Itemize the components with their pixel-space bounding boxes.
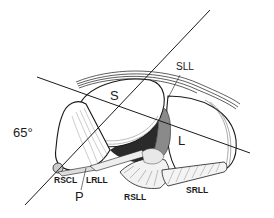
label-SRLL: SRLL bbox=[186, 186, 208, 195]
label-SLL: SLL bbox=[176, 62, 194, 72]
label-P: P bbox=[75, 190, 84, 203]
bone-L bbox=[166, 96, 236, 172]
ligament-RSLL bbox=[120, 159, 169, 189]
label-LRLL: LRLL bbox=[86, 176, 108, 185]
label-S: S bbox=[110, 89, 119, 102]
label-RSLL: RSLL bbox=[124, 193, 146, 202]
label-L: L bbox=[178, 134, 185, 147]
ligament-SRLL bbox=[162, 162, 227, 186]
label-angle: 65° bbox=[13, 126, 33, 139]
wrist-ligament-diagram bbox=[0, 0, 274, 218]
label-RSCL: RSCL bbox=[54, 176, 77, 185]
